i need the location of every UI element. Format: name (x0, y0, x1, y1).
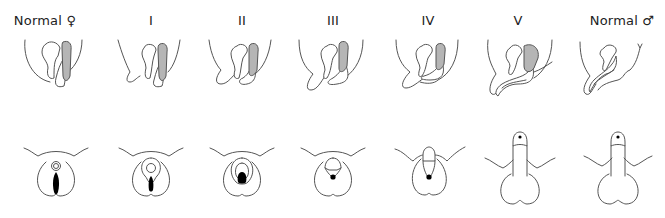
sagittal-stage-1 (116, 38, 188, 93)
external-stage-5 (483, 128, 558, 206)
stage-label-5: V (513, 13, 522, 28)
external-stage-4 (393, 135, 465, 201)
stage-label-2: II (238, 13, 246, 28)
sagittal-stage-4 (392, 38, 464, 96)
stage-label-normal-male: Normal ♂ (590, 13, 654, 28)
sagittal-stage-3 (297, 38, 369, 96)
stage-label-3: III (327, 13, 339, 28)
external-stage-3 (299, 140, 367, 200)
stage-label-1: I (149, 13, 153, 28)
sagittal-normal-male (576, 38, 648, 100)
sagittal-stage-5 (482, 38, 557, 100)
external-stage-2 (208, 140, 276, 200)
stage-label-normal-female: Normal ♀ (14, 13, 76, 28)
sagittal-stage-2 (207, 38, 279, 93)
external-normal-female (22, 140, 90, 200)
stage-label-4: IV (421, 13, 434, 28)
sagittal-normal-female (20, 38, 90, 93)
external-stage-1 (117, 140, 185, 200)
external-normal-male (582, 128, 654, 206)
